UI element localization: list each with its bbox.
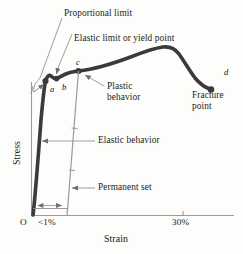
point-label-a: a	[50, 85, 54, 94]
leader-proportional-limit-line	[40, 18, 62, 78]
label-elastic-limit: Elastic limit or yield point	[74, 33, 174, 43]
point-label-c: c	[76, 58, 80, 67]
x-axis-title: Strain	[104, 234, 128, 245]
leader-elastic-limit-line	[58, 34, 72, 68]
x-tick-label-under-1-percent: <1%	[38, 218, 56, 228]
y-axis-title: Stress	[12, 141, 23, 165]
label-elastic-behavior: Elastic behavior	[98, 135, 160, 145]
unload-line-tick-upper	[72, 128, 78, 129]
point-a-marker	[42, 78, 48, 84]
leader-plastic-behavior-line	[85, 75, 104, 86]
point-b-marker	[54, 76, 60, 82]
unload-line-tick-lower	[69, 170, 75, 171]
label-fracture-point-line1: Fracture	[192, 90, 224, 100]
label-fracture-point-line2: point	[192, 101, 212, 111]
leader-elastic-limit	[57, 34, 73, 74]
axis-origin-label: O	[20, 218, 27, 228]
x-tick-label-30-percent: 30%	[172, 218, 189, 228]
label-plastic-behavior-line2: behavior	[107, 92, 140, 102]
unload-line-group	[67, 71, 79, 216]
leader-plastic-behavior	[85, 75, 104, 86]
leader-elastic-limit-arrow	[57, 68, 59, 74]
point-label-d: d	[224, 68, 228, 77]
permanent-set-bracket	[33, 206, 68, 209]
label-plastic-behavior-line1: Plastic	[107, 81, 133, 91]
point-label-b: b	[62, 83, 66, 92]
stress-strain-diagram: Proportional limit Elastic limit or yiel…	[0, 0, 243, 254]
label-permanent-set: Permanent set	[98, 182, 152, 192]
label-proportional-limit: Proportional limit	[64, 8, 132, 18]
elastic-unload-line	[67, 71, 79, 216]
